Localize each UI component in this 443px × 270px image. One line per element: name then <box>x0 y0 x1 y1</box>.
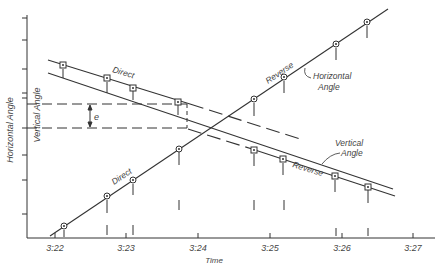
reverse-line-extension <box>188 129 252 149</box>
vertical-angle-label-1: Vertical <box>335 138 364 148</box>
epsilon-label: e <box>94 112 99 122</box>
x-tick-label: 3:25 <box>261 243 280 253</box>
reverse-label-vertical: Reverse <box>291 159 324 178</box>
horizontal-angle-label-2: Angle <box>317 82 340 92</box>
y-axis-label-vertical: Vertical Angle <box>32 88 42 143</box>
x-tick-label: 3:23 <box>117 243 135 253</box>
direct-label-vertical: Direct <box>111 64 136 80</box>
x-tick-label: 3:24 <box>189 243 207 253</box>
vertical-angle-mean-line <box>48 73 393 189</box>
diagram-canvas: 3:22 3:23 3:24 3:25 3:26 3:27 Time Horiz… <box>0 0 443 270</box>
axes <box>22 15 435 238</box>
epsilon-construction <box>27 104 190 128</box>
y-axis-label-horizontal: Horizontal Angle <box>5 97 15 163</box>
direct-line-extension <box>190 104 300 139</box>
time-drop-lines <box>107 200 368 236</box>
direct-label-horizontal: Direct <box>110 166 135 187</box>
horizontal-angle-label-1: Horizontal <box>313 71 352 81</box>
x-tick-label: 3:22 <box>46 243 64 253</box>
x-tick-label: 3:27 <box>404 243 423 253</box>
epsilon-arrow <box>88 105 92 127</box>
vertical-angle-label-2: Angle <box>340 148 363 158</box>
x-axis-label: Time <box>205 256 223 265</box>
x-tick-label: 3:26 <box>333 243 351 253</box>
reverse-line <box>252 149 395 196</box>
